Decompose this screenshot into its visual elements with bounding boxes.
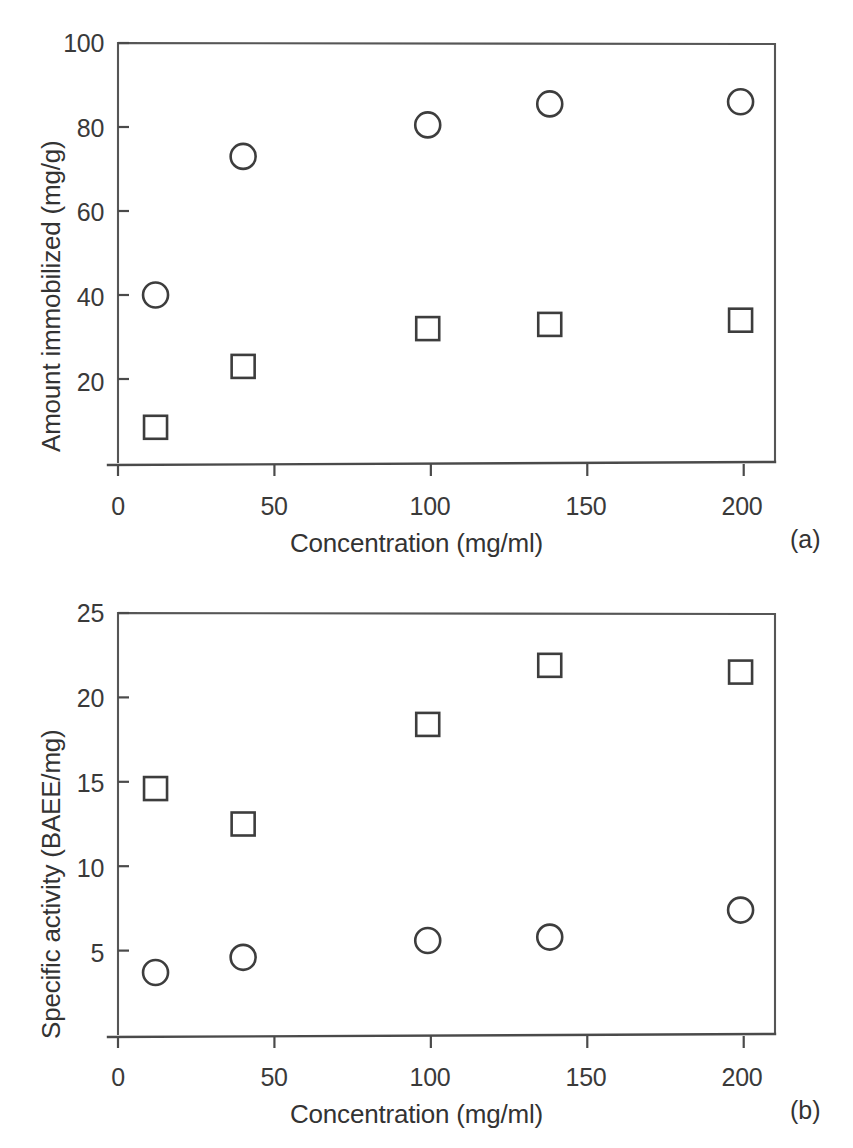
panel-b-xtick-200: 200	[722, 1063, 763, 1092]
panel-b-xtick-100: 100	[410, 1063, 451, 1092]
panel-b-point-circle	[537, 925, 562, 950]
figure-two-panel-scatter: 100 80 60 40 20 0 50 100 150 200 Concent…	[0, 0, 853, 1148]
panel-b-x-axis-title: Concentration (mg/ml)	[290, 1099, 543, 1130]
panel-b-point-square	[538, 654, 561, 677]
panel-a-x-axis	[108, 462, 775, 465]
panel-b: 25 20 15 10 5 0 50 100 150 200 Concentra…	[0, 574, 853, 1148]
panel-b-xtick-50: 50	[260, 1063, 287, 1092]
panel-a-point-square	[416, 317, 439, 340]
panel-a-point-square	[144, 416, 167, 439]
panel-b-y-axis-title: Specific activity (BAEE/mg)	[36, 729, 67, 1039]
panel-a-ytick-80: 80	[16, 114, 104, 143]
panel-a-xtick-200: 200	[722, 492, 763, 521]
panel-a-x-axis-title: Concentration (mg/ml)	[290, 528, 543, 559]
panel-a-point-square	[232, 355, 255, 378]
panel-a-letter: (a)	[790, 525, 821, 554]
panel-b-point-square	[232, 813, 255, 836]
panel-b-point-square	[729, 661, 752, 684]
panel-a-point-square	[729, 309, 752, 332]
panel-a-xtick-100: 100	[410, 492, 451, 521]
panel-a-point-circle	[143, 283, 168, 308]
panel-b-point-circle	[415, 928, 440, 953]
panel-a-y-axis-title: Amount immobilized (mg/g)	[36, 141, 67, 452]
panel-a-xtick-150: 150	[566, 492, 607, 521]
panel-b-point-square	[416, 713, 439, 736]
panel-b-letter: (b)	[790, 1096, 821, 1125]
panel-a-point-circle	[231, 144, 256, 169]
panel-b-point-circle	[231, 945, 256, 970]
panel-b-frame	[118, 613, 775, 1035]
panel-b-ytick-25: 25	[16, 599, 104, 628]
panel-b-xtick-150: 150	[566, 1063, 607, 1092]
panel-b-x-axis	[108, 1034, 775, 1037]
panel-b-point-circle	[728, 898, 753, 923]
panel-b-point-square	[144, 777, 167, 800]
panel-a: 100 80 60 40 20 0 50 100 150 200 Concent…	[0, 0, 853, 574]
panel-b-ytick-20: 20	[16, 684, 104, 713]
panel-b-point-circle	[143, 960, 168, 985]
panel-a-xtick-50: 50	[260, 492, 287, 521]
panel-a-frame	[118, 43, 775, 463]
panel-b-xtick-0: 0	[111, 1063, 125, 1092]
panel-a-point-circle	[728, 89, 753, 114]
panel-a-plot	[0, 0, 853, 574]
panel-a-xtick-0: 0	[111, 492, 125, 521]
panel-b-plot	[0, 574, 853, 1148]
panel-a-point-circle	[537, 91, 562, 116]
panel-a-ytick-100: 100	[16, 29, 104, 58]
panel-a-point-square	[538, 313, 561, 336]
panel-a-point-circle	[415, 112, 440, 137]
